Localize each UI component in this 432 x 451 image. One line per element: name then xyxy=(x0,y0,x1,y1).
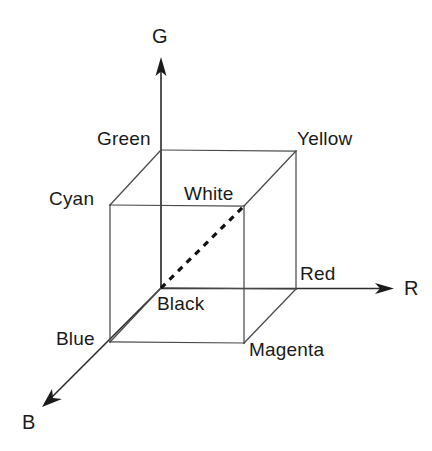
edge-magenta-blue xyxy=(110,342,244,343)
vertex-label-white: White xyxy=(184,184,234,203)
blue-axis-arrowhead xyxy=(42,389,62,407)
vertex-label-green: Green xyxy=(97,129,151,148)
axis-label-g: G xyxy=(152,26,168,46)
vertex-label-yellow: Yellow xyxy=(297,129,352,148)
edge-cyan-green xyxy=(110,150,161,205)
vertex-label-magenta: Magenta xyxy=(249,340,324,359)
rgb-color-cube-diagram: Green Yellow Cyan White Black Red Blue M… xyxy=(0,0,432,451)
axis-label-r: R xyxy=(404,278,419,298)
cube-drawing-canvas xyxy=(0,0,432,451)
vertex-label-cyan: Cyan xyxy=(49,189,94,208)
edge-blue-black xyxy=(110,288,161,342)
vertex-label-black: Black xyxy=(157,294,204,313)
axis-label-b: B xyxy=(22,412,36,432)
vertex-label-blue: Blue xyxy=(56,329,95,348)
edge-white-yellow xyxy=(244,151,296,206)
edge-magenta-red xyxy=(244,289,296,343)
edge-green-yellow xyxy=(161,150,296,151)
cube-depth-edges xyxy=(110,150,296,343)
vertex-label-red: Red xyxy=(300,264,335,283)
edge-cyan-white xyxy=(110,205,244,206)
grayscale-diagonal-dashed-line xyxy=(161,206,244,288)
